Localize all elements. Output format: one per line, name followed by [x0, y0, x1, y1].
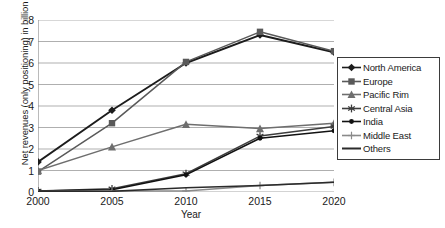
- y-tick-label: 5: [28, 79, 34, 90]
- legend-label: North America: [362, 62, 421, 73]
- marker-square: [348, 78, 354, 84]
- marker-dot: [332, 128, 334, 133]
- legend-label: Middle East: [362, 130, 411, 141]
- series-line: [38, 131, 334, 191]
- chart-figure: Net revenues (only positioning) in billi…: [0, 0, 445, 228]
- series-north-america: [38, 31, 334, 165]
- series-line: [38, 126, 334, 191]
- legend-label: Europe: [362, 76, 393, 87]
- marker-dot: [349, 119, 354, 124]
- x-tick-label: 2005: [100, 196, 123, 207]
- marker-plus: [348, 131, 356, 139]
- legend-marker-dot-icon: [341, 115, 362, 128]
- x-tick-label: 2020: [322, 196, 345, 207]
- legend-marker-diamond-icon: [341, 61, 362, 74]
- legend-label: Central Asia: [362, 103, 412, 114]
- marker-diamond: [348, 64, 356, 72]
- y-tick-label: 7: [28, 36, 34, 47]
- legend-item-central-asia[interactable]: Central Asia: [341, 102, 437, 116]
- marker-dot: [258, 136, 263, 141]
- y-tick-label: 2: [28, 144, 34, 155]
- x-tick-label: 2010: [174, 196, 197, 207]
- legend-label: Others: [362, 143, 391, 154]
- marker-square: [257, 29, 263, 35]
- legend-item-europe[interactable]: Europe: [341, 75, 437, 89]
- marker-dot: [184, 172, 189, 177]
- x-tick-label: 2015: [248, 196, 271, 207]
- y-tick-label: 4: [28, 101, 34, 112]
- plot-area: 01234567820002005201020152020: [38, 20, 334, 192]
- legend-marker-square-icon: [341, 75, 362, 88]
- series-central-asia: [38, 123, 334, 192]
- series-india: [38, 128, 334, 192]
- legend-item-north-america[interactable]: North America: [341, 61, 437, 75]
- marker-square: [109, 120, 115, 126]
- x-tick-label: 2000: [26, 196, 49, 207]
- y-tick-label: 1: [28, 165, 34, 176]
- y-tick-label: 3: [28, 122, 34, 133]
- marker-square: [183, 59, 189, 65]
- legend-marker-triangle-icon: [341, 88, 362, 101]
- legend-label: India: [362, 116, 383, 127]
- legend-item-pacific-rim[interactable]: Pacific Rim: [341, 88, 437, 102]
- legend-item-others[interactable]: Others: [341, 142, 437, 156]
- chart-legend: North AmericaEuropePacific RimCentral As…: [337, 57, 440, 160]
- legend-marker-plus-icon: [341, 129, 362, 142]
- y-tick-label: 6: [28, 58, 34, 69]
- legend-label: Pacific Rim: [362, 89, 409, 100]
- legend-item-india[interactable]: India: [341, 115, 437, 129]
- y-tick-label: 8: [28, 15, 34, 26]
- marker-square: [331, 48, 334, 54]
- plot-svg: [38, 20, 334, 192]
- x-axis-title: Year: [36, 209, 346, 220]
- legend-marker-line-icon: [341, 142, 362, 155]
- series-europe: [38, 29, 334, 175]
- legend-item-middle-east[interactable]: Middle East: [341, 129, 437, 143]
- legend-marker-asterisk-icon: [341, 102, 362, 115]
- series-line: [38, 32, 334, 172]
